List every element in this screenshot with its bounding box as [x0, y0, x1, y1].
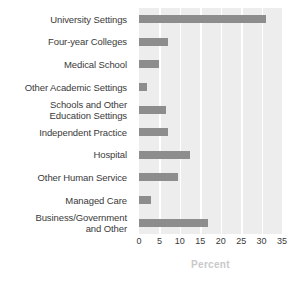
x-tick-label: 35 — [277, 236, 287, 246]
bar — [139, 15, 266, 23]
x-tick-label: 30 — [257, 236, 267, 246]
category-label: Medical School — [0, 53, 133, 76]
category-label: Other Academic Settings — [0, 76, 133, 99]
x-tick-label: 25 — [236, 236, 246, 246]
bar-row — [139, 121, 282, 144]
x-axis-title: Percent — [139, 259, 282, 270]
bar — [139, 106, 166, 114]
x-axis-ticks: 05101520253035 — [139, 236, 282, 250]
bar-row — [139, 8, 282, 31]
bar — [139, 38, 168, 46]
bar — [139, 60, 159, 68]
bar-row — [139, 144, 282, 167]
x-tick-label: 5 — [157, 236, 162, 246]
category-label: Hospital — [0, 144, 133, 167]
category-label: Managed Care — [0, 189, 133, 212]
plot-area — [139, 8, 282, 234]
category-label: Four-year Colleges — [0, 31, 133, 54]
bar-row — [139, 53, 282, 76]
x-tick-label: 15 — [195, 236, 205, 246]
bar-row — [139, 98, 282, 121]
horizontal-bar-chart: University SettingsFour-year CollegesMed… — [0, 0, 305, 283]
bar — [139, 128, 168, 136]
bar — [139, 196, 151, 204]
bar-row — [139, 211, 282, 234]
bar-row — [139, 189, 282, 212]
x-tick-label: 10 — [175, 236, 185, 246]
x-tick-label: 20 — [216, 236, 226, 246]
category-label: Independent Practice — [0, 121, 133, 144]
category-label: Other Human Service — [0, 166, 133, 189]
bars — [139, 8, 282, 234]
bar — [139, 173, 178, 181]
bar — [139, 83, 147, 91]
category-label: Schools and Other Education Settings — [0, 98, 133, 121]
x-tick-label: 0 — [136, 236, 141, 246]
category-label: University Settings — [0, 8, 133, 31]
category-labels: University SettingsFour-year CollegesMed… — [0, 8, 133, 234]
bar-row — [139, 76, 282, 99]
bar — [139, 219, 208, 227]
bar-row — [139, 166, 282, 189]
bar-row — [139, 31, 282, 54]
bar — [139, 151, 190, 159]
category-label: Business/Government and Other — [0, 211, 133, 234]
